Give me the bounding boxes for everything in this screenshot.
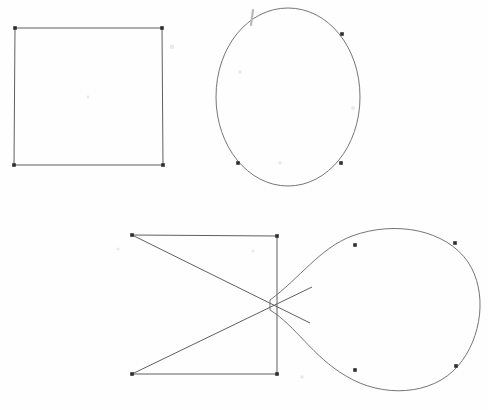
vertex-marker[interactable] xyxy=(353,368,357,372)
vertex-marker[interactable] xyxy=(12,163,16,167)
figure-svg xyxy=(0,0,488,410)
vertex-marker[interactable] xyxy=(340,32,344,36)
vertex-marker[interactable] xyxy=(275,234,279,238)
vertex-marker[interactable] xyxy=(130,233,134,237)
scan-speck xyxy=(278,161,282,165)
vertex-marker[interactable] xyxy=(353,243,357,247)
vertex-marker[interactable] xyxy=(236,161,240,165)
vertex-marker[interactable] xyxy=(161,163,165,167)
vertex-marker[interactable] xyxy=(13,26,17,30)
vertex-marker[interactable] xyxy=(160,26,164,30)
vertex-marker[interactable] xyxy=(454,364,458,368)
scan-speck xyxy=(251,249,254,252)
scan-speck xyxy=(116,247,119,250)
figure-background xyxy=(0,0,488,410)
scan-speck xyxy=(170,45,174,49)
vertex-marker[interactable] xyxy=(339,161,343,165)
scan-speck xyxy=(300,375,304,379)
figure-canvas xyxy=(0,0,488,410)
vertex-marker[interactable] xyxy=(275,372,279,376)
scan-speck xyxy=(87,96,90,99)
vertex-marker[interactable] xyxy=(130,372,134,376)
scan-speck xyxy=(351,106,355,110)
scan-speck xyxy=(238,70,242,74)
vertex-marker[interactable] xyxy=(453,241,457,245)
